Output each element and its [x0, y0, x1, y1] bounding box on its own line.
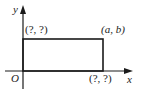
y-axis-label: y [13, 4, 18, 15]
rectangle [23, 39, 103, 71]
origin-label: O [11, 73, 19, 84]
bottom-right-vertex-label: (?, ?) [89, 73, 112, 84]
top-left-vertex-label: (?, ?) [25, 24, 48, 35]
top-right-vertex-label: (a, b) [101, 24, 125, 35]
x-axis-label: x [127, 74, 132, 85]
y-axis-arrow-icon [20, 5, 26, 14]
coordinate-diagram: y (?, ?) (a, b) O (?, ?) x [0, 0, 141, 91]
diagram-graphics [0, 0, 141, 91]
